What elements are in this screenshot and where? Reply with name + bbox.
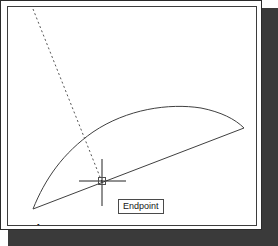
- dashed-construction-line[interactable]: [33, 9, 102, 182]
- drawing-viewport[interactable]: A B Endpoint: [7, 6, 257, 226]
- vertex-label-a: A: [33, 222, 44, 226]
- cad-drawing-figure: A B Endpoint: [0, 0, 278, 246]
- arc-curve[interactable]: [33, 106, 244, 209]
- drawing-canvas[interactable]: [7, 6, 257, 226]
- endpoint-snap-tooltip: Endpoint: [118, 199, 164, 214]
- figure-outer-frame: A B Endpoint: [0, 0, 262, 230]
- chord-line-ab[interactable]: [33, 128, 244, 209]
